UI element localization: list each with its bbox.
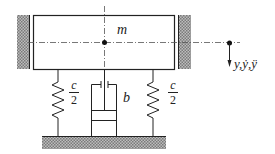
left-wall [17, 15, 30, 69]
center-of-mass-dot [102, 40, 107, 45]
right-spring-label: c 2 [168, 79, 178, 106]
damper [92, 70, 117, 137]
left-spring-label-denominator: 2 [69, 93, 79, 106]
left-spring-label: c 2 [69, 79, 79, 106]
left-spring-label-numerator: c [69, 79, 79, 93]
right-spring [147, 70, 159, 137]
mass-label: m [117, 23, 127, 37]
diagram-canvas [0, 0, 275, 154]
displacement-label: y,ẏ,ÿ [234, 57, 257, 70]
right-spring-label-numerator: c [168, 79, 178, 93]
right-wall [179, 15, 192, 69]
right-spring-label-denominator: 2 [168, 93, 178, 106]
displacement-arrow-icon [228, 43, 232, 67]
damper-label: b [123, 91, 130, 105]
ground [42, 137, 166, 150]
left-spring [52, 70, 64, 137]
